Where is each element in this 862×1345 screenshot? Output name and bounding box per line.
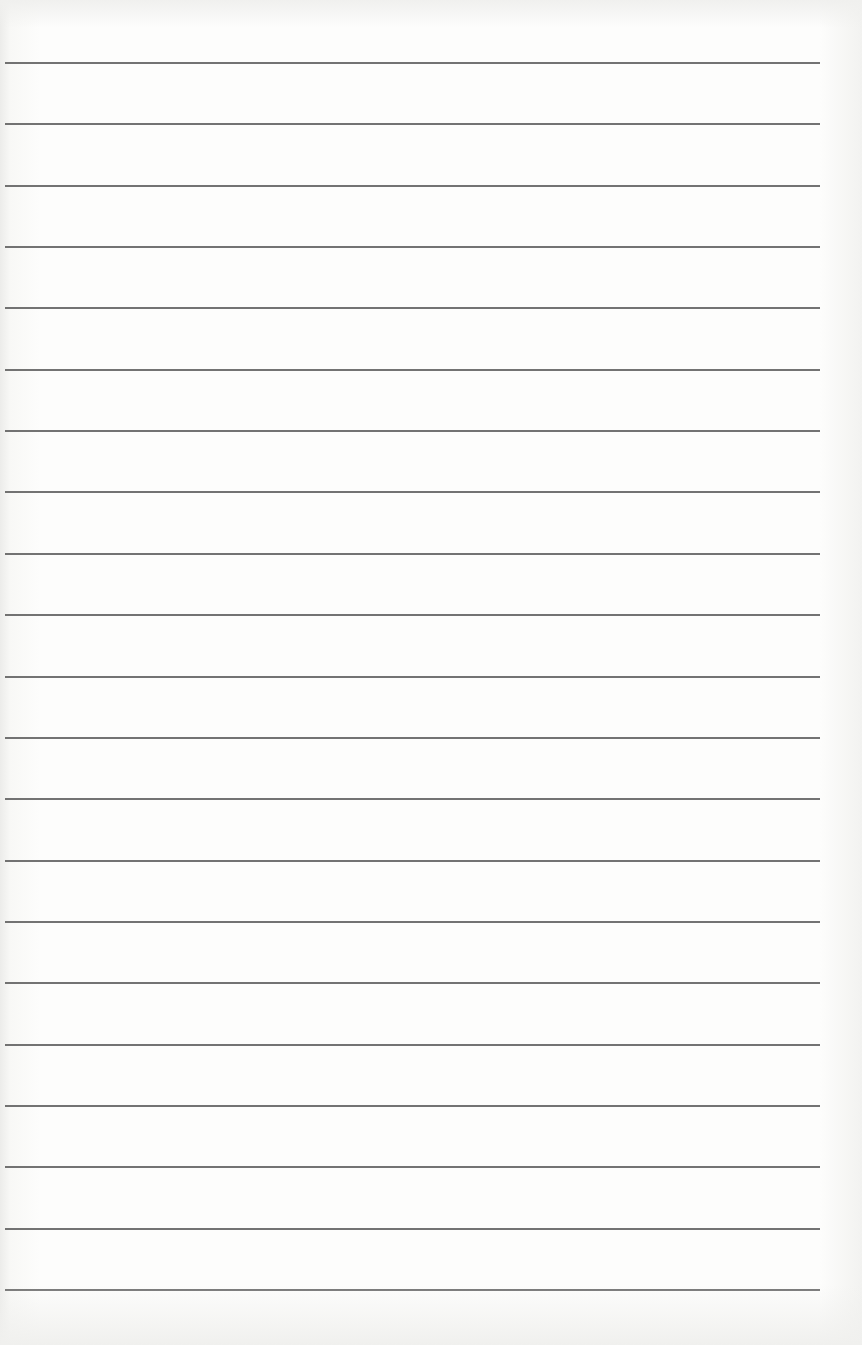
- ruled-line: [5, 185, 820, 187]
- ruled-line: [5, 62, 820, 64]
- ruled-line: [5, 1105, 820, 1107]
- ruled-line: [5, 860, 820, 862]
- ruled-line: [5, 553, 820, 555]
- paper-top-shading: [0, 0, 862, 28]
- ruled-line: [5, 123, 820, 125]
- ruled-line: [5, 614, 820, 616]
- ruled-line: [5, 1044, 820, 1046]
- ruled-line: [5, 798, 820, 800]
- ruled-line: [5, 1228, 820, 1230]
- ruled-line: [5, 307, 820, 309]
- ruled-line: [5, 246, 820, 248]
- ruled-line: [5, 737, 820, 739]
- ruled-line: [5, 676, 820, 678]
- ruled-line: [5, 369, 820, 371]
- paper-bottom-shading: [0, 1285, 862, 1345]
- ruled-line: [5, 1166, 820, 1168]
- ruled-line: [5, 430, 820, 432]
- ruled-line: [5, 921, 820, 923]
- lined-paper-sheet: [0, 0, 862, 1345]
- ruled-line: [5, 491, 820, 493]
- ruled-line: [5, 982, 820, 984]
